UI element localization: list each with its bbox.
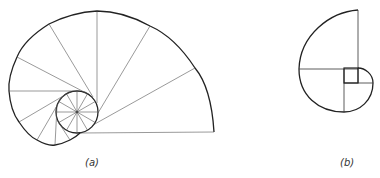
figure-b bbox=[299, 10, 373, 112]
involute-curve-b bbox=[299, 10, 373, 112]
involute-curve-a bbox=[9, 11, 214, 145]
diagram-canvas bbox=[0, 0, 380, 178]
figure-a bbox=[9, 11, 214, 145]
figure-a-label: (a) bbox=[85, 157, 99, 168]
figure-b-label: (b) bbox=[340, 157, 354, 168]
square-construction bbox=[299, 10, 373, 112]
base-square bbox=[344, 68, 358, 83]
